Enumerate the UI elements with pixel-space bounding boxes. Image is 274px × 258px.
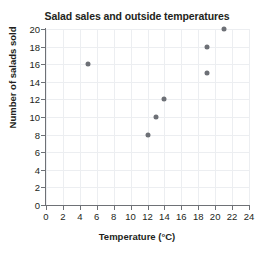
x-tick-label: 24: [238, 211, 260, 222]
data-point: [153, 115, 158, 120]
x-tick-mark: [131, 206, 132, 210]
y-tick-label: 4: [0, 164, 40, 175]
data-point: [204, 71, 209, 76]
gridline-horizontal: [46, 117, 249, 118]
y-tick-mark: [41, 29, 45, 30]
gridline-horizontal: [46, 99, 249, 100]
x-tick-mark: [63, 206, 64, 210]
gridline-vertical: [249, 29, 250, 205]
y-tick-mark: [41, 117, 45, 118]
y-tick-label: 2: [0, 182, 40, 193]
gridline-horizontal: [46, 47, 249, 48]
x-tick-mark: [249, 206, 250, 210]
gridlines: [46, 29, 249, 205]
gridline-horizontal: [46, 170, 249, 171]
y-tick-mark: [41, 135, 45, 136]
chart-title: Salad sales and outside temperatures: [0, 10, 274, 22]
data-point: [221, 27, 226, 32]
y-tick-mark: [41, 205, 45, 206]
data-point: [204, 44, 209, 49]
gridline-horizontal: [46, 64, 249, 65]
x-tick-mark: [97, 206, 98, 210]
plot-area: [46, 29, 249, 205]
data-point: [86, 62, 91, 67]
gridline-horizontal: [46, 152, 249, 153]
data-point: [145, 132, 150, 137]
x-tick-mark: [148, 206, 149, 210]
y-tick-mark: [41, 47, 45, 48]
y-axis-line: [45, 28, 46, 206]
y-tick-mark: [41, 187, 45, 188]
y-tick-label: 6: [0, 147, 40, 158]
x-tick-mark: [215, 206, 216, 210]
x-tick-mark: [232, 206, 233, 210]
gridline-horizontal: [46, 29, 249, 30]
x-tick-mark: [46, 206, 47, 210]
y-tick-mark: [41, 99, 45, 100]
data-point: [162, 97, 167, 102]
clipped-header-strip: [0, 0, 274, 9]
x-tick-mark: [114, 206, 115, 210]
x-axis-title: Temperature (°C): [0, 231, 274, 242]
x-tick-mark: [198, 206, 199, 210]
x-tick-mark: [164, 206, 165, 210]
x-tick-mark: [181, 206, 182, 210]
y-tick-mark: [41, 64, 45, 65]
y-tick-label: 0: [0, 200, 40, 211]
y-axis-title: Number of salads sold: [7, 18, 18, 138]
y-tick-mark: [41, 170, 45, 171]
gridline-horizontal: [46, 82, 249, 83]
y-tick-mark: [41, 82, 45, 83]
chart-page: Salad sales and outside temperatures 024…: [0, 0, 274, 258]
gridline-horizontal: [46, 187, 249, 188]
y-tick-mark: [41, 152, 45, 153]
x-tick-mark: [80, 206, 81, 210]
